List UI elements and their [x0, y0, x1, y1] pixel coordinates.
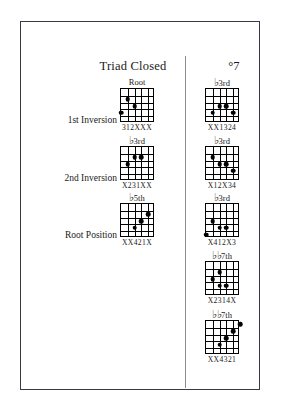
fretboard-grid [205, 261, 239, 295]
interval-name: Root [129, 77, 146, 87]
fret-line [206, 211, 238, 212]
fret-line [206, 116, 238, 117]
fret-line [206, 282, 238, 283]
fret-line [206, 335, 238, 336]
dim7-2nd-inversion: ♭3rdX12X34 [199, 135, 245, 190]
finger-dot [146, 212, 151, 217]
finger-dot [217, 270, 222, 275]
accidental-symbol: ♭♭ [212, 309, 221, 320]
finger-dot [217, 343, 222, 348]
column-divider [185, 56, 186, 388]
column-header-triad-closed: Triad Closed [81, 59, 185, 74]
fret-line [206, 348, 238, 349]
finger-dot [217, 226, 222, 231]
fretboard-grid [120, 88, 154, 122]
finger-dot [224, 162, 229, 167]
finger-dot [224, 226, 229, 231]
finger-dot [231, 111, 236, 116]
fret-line [121, 224, 153, 225]
fingering-label: XX4321 [199, 355, 245, 364]
fingering-label: X231XX [114, 181, 160, 190]
fret-line [121, 167, 153, 168]
fret-line [206, 231, 238, 232]
finger-dot [224, 104, 229, 109]
interval-label: ♭3rd [199, 77, 245, 88]
fretboard-grid [205, 203, 239, 237]
triad-1st-inversion: Root312XXX [114, 77, 160, 132]
fret-line [206, 103, 238, 104]
fret-line [121, 154, 153, 155]
row-label-root-position: Root Position [25, 230, 117, 240]
finger-dot [132, 104, 137, 109]
finger-dot [139, 219, 144, 224]
row-label-first-inversion: 1st Inversion [25, 115, 117, 125]
finger-dot [217, 162, 222, 167]
fretboard-grid [205, 320, 239, 354]
finger-dot [126, 162, 131, 167]
dim7-root-position: ♭3rdX412X3 [199, 192, 245, 247]
finger-dot [132, 155, 137, 160]
fret-line [206, 96, 238, 97]
fretboard-grid [205, 88, 239, 122]
fret-line [206, 161, 238, 162]
fret-line [121, 218, 153, 219]
dim7-fifth: ♭♭7thXX4321 [199, 309, 245, 364]
interval-label: Root [114, 77, 160, 88]
fret-line [206, 269, 238, 270]
fret-line [206, 224, 238, 225]
interval-name: 7th [221, 310, 232, 320]
interval-label: ♭♭7th [199, 309, 245, 320]
finger-dot [204, 232, 209, 237]
triad-root-position: ♭5thXX421X [114, 192, 160, 247]
row-label-second-inversion: 2nd Inversion [25, 173, 117, 183]
fingering-label: X412X3 [199, 238, 245, 247]
interval-label: ♭♭7th [199, 250, 245, 261]
interval-label: ♭3rd [114, 135, 160, 146]
finger-dot [231, 169, 236, 174]
interval-name: 3rd [219, 78, 230, 88]
interval-label: ♭3rd [199, 192, 245, 203]
fingering-label: XX1324 [199, 123, 245, 132]
fingering-label: X12X34 [199, 181, 245, 190]
finger-dot [224, 284, 229, 289]
finger-dot [211, 219, 216, 224]
chord-chart-page: Triad Closed °7 1st Inversion 2nd Invers… [20, 21, 260, 390]
triad-2nd-inversion: ♭3rdX231XX [114, 135, 160, 190]
fret-line [121, 103, 153, 104]
finger-dot [126, 97, 131, 102]
fingering-label: XX421X [114, 238, 160, 247]
column-header-dim7: °7 [191, 59, 277, 74]
finger-dot [211, 155, 216, 160]
finger-dot [211, 277, 216, 282]
fret-line [206, 341, 238, 342]
dim7-fourth: ♭♭7thX2314X [199, 250, 245, 305]
finger-dot [217, 104, 222, 109]
finger-dot [211, 111, 216, 116]
finger-dot [132, 226, 137, 231]
finger-dot [231, 329, 236, 334]
finger-dot [238, 322, 243, 327]
interval-name: 3rd [134, 136, 145, 146]
interval-name: 3rd [219, 136, 230, 146]
interval-name: 5th [134, 193, 145, 203]
interval-label: ♭3rd [199, 135, 245, 146]
finger-dot [139, 155, 144, 160]
fret-line [206, 174, 238, 175]
fingering-label: X2314X [199, 296, 245, 305]
fret-line [121, 109, 153, 110]
fret-line [121, 231, 153, 232]
finger-dot [224, 336, 229, 341]
accidental-symbol: ♭♭ [212, 250, 221, 261]
finger-dot [217, 284, 222, 289]
fretboard-grid [120, 203, 154, 237]
fretboard-grid [205, 146, 239, 180]
interval-label: ♭5th [114, 192, 160, 203]
interval-name: 3rd [219, 193, 230, 203]
interval-name: 7th [221, 251, 232, 261]
dim7-1st-inversion: ♭3rdXX1324 [199, 77, 245, 132]
fret-line [121, 174, 153, 175]
fret-line [206, 289, 238, 290]
fretboard-grid [120, 146, 154, 180]
fret-line [121, 116, 153, 117]
finger-dot [119, 111, 124, 116]
